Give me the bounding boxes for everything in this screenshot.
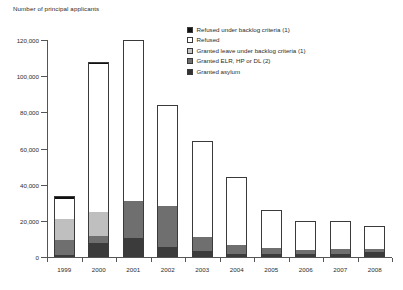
bar-segment-refused [54,199,75,219]
legend-swatch-icon [187,69,193,75]
bar-segment-refused [295,221,316,250]
legend-label: Refused under backlog criteria (1) [197,27,290,33]
x-axis-tick [116,258,117,262]
x-axis-tick [151,258,152,262]
x-axis-label-2003: 2003 [195,266,209,273]
chart-legend: Refused under backlog criteria (1)Refuse… [187,27,306,75]
legend-label: Granted ELR, HP or DL (2) [197,58,271,64]
bar-segment-granted-asylum [123,238,144,257]
bar-segment-granted-asylum [192,251,213,257]
x-axis-tick [220,258,221,262]
y-axis-tick-label: 40,000 [20,181,39,188]
legend-item-granted-asylum: Granted asylum [187,69,306,75]
y-axis-tick-label: 80,000 [20,109,39,116]
x-axis-label-2005: 2005 [264,266,278,273]
x-axis-tick [185,258,186,262]
bar-2000 [88,62,109,257]
bar-2004 [226,177,247,257]
bar-segment-refused [192,141,213,237]
bar-2008 [364,226,385,257]
bar-segment-refused [226,177,247,245]
x-axis-label-2004: 2004 [230,266,244,273]
chart-container: Number of principal applicants 020,00040… [0,0,403,290]
bar-segment-granted-asylum [330,254,351,257]
legend-swatch-icon [187,48,193,54]
chart-axis-title: Number of principal applicants [13,5,99,12]
legend-label: Refused [197,37,220,43]
bar-segment-refused [88,64,109,211]
y-axis-tick-label: 60,000 [20,145,39,152]
bar-segment-granted-asylum [54,255,75,257]
x-axis-label-2001: 2001 [126,266,140,273]
bar-segment-granted-elr [157,206,178,247]
bar-segment-refused [157,105,178,206]
bar-segment-granted-leave-backlog [88,212,109,236]
legend-label: Granted leave under backlog criteria (1) [197,48,306,54]
bar-segment-refused [364,226,385,249]
legend-swatch-icon [187,37,193,43]
legend-swatch-icon [187,27,193,33]
legend-item-granted-elr: Granted ELR, HP or DL (2) [187,58,306,64]
x-axis-tick [323,258,324,262]
bar-segment-refused [330,221,351,250]
x-axis-label-2006: 2006 [299,266,313,273]
bar-segment-granted-elr [123,201,144,238]
legend-item-refused: Refused [187,37,306,43]
bar-segment-granted-asylum [261,254,282,257]
bar-segment-granted-asylum [226,254,247,257]
x-axis-label-1999: 1999 [57,266,71,273]
bar-segment-granted-asylum [364,252,385,257]
legend-item-refused-backlog: Refused under backlog criteria (1) [187,27,306,33]
bar-segment-refused [123,40,144,201]
bar-1999 [54,196,75,257]
y-axis-tick-label: 20,000 [20,217,39,224]
legend-item-granted-leave-backlog: Granted leave under backlog criteria (1) [187,48,306,54]
bar-segment-granted-asylum [88,243,109,257]
y-axis-tick-label: 120,000 [17,37,39,44]
bar-segment-granted-asylum [295,254,316,257]
x-axis-tick [47,258,48,262]
bar-segment-granted-leave-backlog [54,219,75,240]
bar-segment-granted-elr [192,237,213,251]
y-axis-tick-label: 100,000 [17,73,39,80]
x-axis-tick [358,258,359,262]
x-axis-tick [82,258,83,262]
bar-segment-granted-asylum [157,247,178,257]
legend-label: Granted asylum [197,69,241,75]
bar-2002 [157,105,178,257]
x-axis-label-2000: 2000 [92,266,106,273]
x-axis-tick [289,258,290,262]
y-axis-tick-label: 0 [36,254,39,261]
bar-2001 [123,40,144,257]
bar-2006 [295,221,316,257]
x-axis-tick [254,258,255,262]
bar-2005 [261,210,282,257]
bar-segment-granted-elr [226,245,247,253]
x-axis-label-2008: 2008 [368,266,382,273]
bar-2003 [192,141,213,257]
bar-segment-refused [261,210,282,248]
x-axis-label-2007: 2007 [333,266,347,273]
bar-2007 [330,221,351,257]
x-axis-tick [392,258,393,262]
legend-swatch-icon [187,58,193,64]
bar-segment-granted-elr [54,240,75,255]
x-axis-label-2002: 2002 [161,266,175,273]
